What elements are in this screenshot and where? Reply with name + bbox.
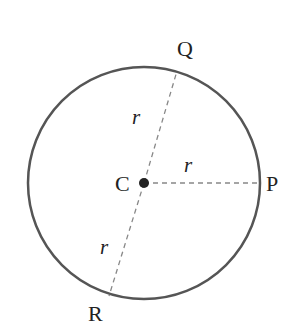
center-dot — [139, 178, 149, 188]
radius-cq — [144, 71, 177, 183]
radius-label-cp: r — [184, 153, 193, 177]
radius-cr — [109, 183, 144, 296]
radius-label-cq: r — [132, 105, 141, 129]
circle-diagram: C P Q R r r r — [0, 0, 294, 335]
label-r: R — [88, 301, 103, 326]
label-q: Q — [177, 36, 193, 61]
label-c: C — [115, 171, 130, 196]
radius-label-cr: r — [100, 235, 109, 259]
label-p: P — [266, 171, 278, 196]
